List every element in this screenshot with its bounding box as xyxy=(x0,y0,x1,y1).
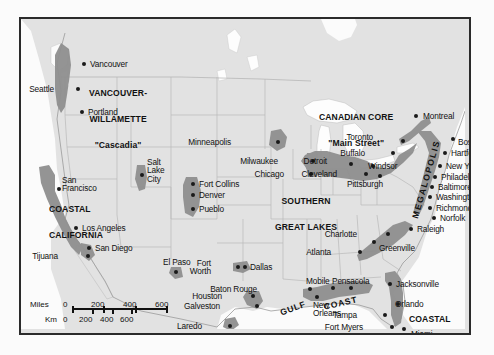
city-label: El Paso xyxy=(163,258,191,266)
city-label-line: Greenville xyxy=(379,244,415,252)
region-line-1: VANCOUVER- xyxy=(89,89,147,98)
city-label: FortWorth xyxy=(190,259,211,276)
city-label: Laredo xyxy=(177,322,202,330)
scale-miles-tick-0: 0 xyxy=(63,300,67,309)
city-label: Chicago xyxy=(255,170,284,178)
scale-tick-km-2 xyxy=(112,308,114,314)
scale-tick-km-1 xyxy=(92,308,94,314)
city-label-line: City xyxy=(147,175,164,183)
map-figure: VancouverSeattlePortlandSanFranciscoLos … xyxy=(0,0,494,355)
city-label-line: Pueblo xyxy=(199,205,224,213)
city-label-line: El Paso xyxy=(163,258,191,266)
city-label-line: Fort Collins xyxy=(199,180,239,188)
city-label: Baltimore xyxy=(438,183,471,191)
scale-tick-0 xyxy=(72,306,74,313)
city-label: Raleigh xyxy=(417,225,444,233)
region-label-canadian-core: CANADIAN CORE "Main Street" xyxy=(319,95,393,165)
city-label-line: Minneapolis xyxy=(188,138,231,146)
city-label: Jacksonville xyxy=(396,280,439,288)
region-line-1: COASTAL xyxy=(49,205,103,214)
city-label: Pueblo xyxy=(199,205,224,213)
city-label: Cleveland xyxy=(301,170,337,178)
city-label-line: Boston xyxy=(458,138,471,146)
city-label-line: Philadelphia xyxy=(441,173,471,181)
city-label: Washington D.C. xyxy=(436,193,471,201)
city-label: SaltLakeCity xyxy=(147,158,164,183)
scale-tick-3 xyxy=(166,306,168,313)
scale-km-tick-0: 0 xyxy=(63,315,67,324)
city-label-line: Jacksonville xyxy=(396,280,439,288)
scale-tick-2 xyxy=(135,306,137,313)
region-line-3: "Cascadia" xyxy=(89,141,147,150)
city-label: Vancouver xyxy=(90,60,128,68)
city-label: Tampa xyxy=(333,311,357,319)
city-label-line: Richmond xyxy=(436,204,471,212)
city-label-line: New York xyxy=(446,162,471,170)
city-label-line: Dallas xyxy=(250,263,272,271)
city-label: Fort Collins xyxy=(199,180,239,188)
city-label-line: Galveston xyxy=(184,302,220,310)
city-label: Pensacola xyxy=(332,277,369,285)
scale-km-label: Km xyxy=(45,315,57,324)
scale-bar-line xyxy=(72,308,167,310)
city-label: Dallas xyxy=(250,263,272,271)
city-label-line: Atlanta xyxy=(306,248,331,256)
region-label-southern-great-lakes: SOUTHERN GREAT LAKES xyxy=(275,179,337,249)
city-label: Seattle xyxy=(29,85,54,93)
city-label-line: Mobile xyxy=(306,277,330,285)
region-line-2: WILLAMETTE xyxy=(89,115,147,124)
city-label: Philadelphia xyxy=(441,173,471,181)
city-label-line: Norfolk xyxy=(440,214,465,222)
city-label: Galveston xyxy=(184,302,220,310)
city-label: Hartford xyxy=(451,149,471,157)
city-label: Denver xyxy=(199,191,225,199)
region-label-vancouver-willamette: VANCOUVER- WILLAMETTE "Cascadia" xyxy=(89,71,147,167)
region-line-2: GREAT LAKES xyxy=(275,223,337,232)
region-line-2: CALIFORNIA xyxy=(49,231,103,240)
city-label: Boston xyxy=(458,138,471,146)
city-label-line: Washington D.C. xyxy=(436,193,471,201)
city-label: Norfolk xyxy=(440,214,465,222)
city-label-line: Tampa xyxy=(333,311,357,319)
city-label: Fort Myers xyxy=(325,323,363,331)
city-label: Richmond xyxy=(436,204,471,212)
city-label: Mobile xyxy=(306,277,330,285)
scale-km-tick-200: 200 xyxy=(79,315,92,324)
city-label-line: Baltimore xyxy=(438,183,471,191)
city-label-line: Pittsburgh xyxy=(347,180,383,188)
city-label: Greenville xyxy=(379,244,415,252)
scale-miles-label: Miles xyxy=(30,300,49,309)
map-frame: VancouverSeattlePortlandSanFranciscoLos … xyxy=(19,17,471,335)
city-label-line: Hartford xyxy=(451,149,471,157)
city-label: Pittsburgh xyxy=(347,180,383,188)
city-label-line: Houston xyxy=(192,292,222,300)
city-label: Montreal xyxy=(423,112,454,120)
city-label: Minneapolis xyxy=(188,138,231,146)
region-label-coastal-california: COASTAL CALIFORNIA xyxy=(49,187,103,257)
region-line-1: SOUTHERN xyxy=(275,197,337,206)
city-dot[interactable] xyxy=(402,327,406,331)
city-label: Houston xyxy=(192,292,222,300)
scale-tick-1 xyxy=(103,306,105,313)
city-label-line: Laredo xyxy=(177,322,202,330)
city-label: New York xyxy=(446,162,471,170)
scale-km-tick-600: 600 xyxy=(120,315,133,324)
city-label-line: Vancouver xyxy=(90,60,128,68)
city-label: Atlanta xyxy=(306,248,331,256)
city-label-line: Montreal xyxy=(423,112,454,120)
city-label: Milwaukee xyxy=(240,157,278,165)
city-label-line: Cleveland xyxy=(301,170,337,178)
city-label-line: Raleigh xyxy=(417,225,444,233)
region-line-1: COASTAL xyxy=(409,315,451,324)
city-label-line: Pensacola xyxy=(332,277,369,285)
city-label-line: Seattle xyxy=(29,85,54,93)
city-label-line: Fort Myers xyxy=(325,323,363,331)
region-line-2: "Main Street" xyxy=(319,139,393,148)
city-label-line: Chicago xyxy=(255,170,284,178)
scale-km-tick-400: 400 xyxy=(100,315,113,324)
scale-tick-km-3 xyxy=(131,308,133,314)
city-label-line: Denver xyxy=(199,191,225,199)
city-label-line: Worth xyxy=(190,267,211,275)
city-label-line: Milwaukee xyxy=(240,157,278,165)
region-line-1: CANADIAN CORE xyxy=(319,113,393,122)
